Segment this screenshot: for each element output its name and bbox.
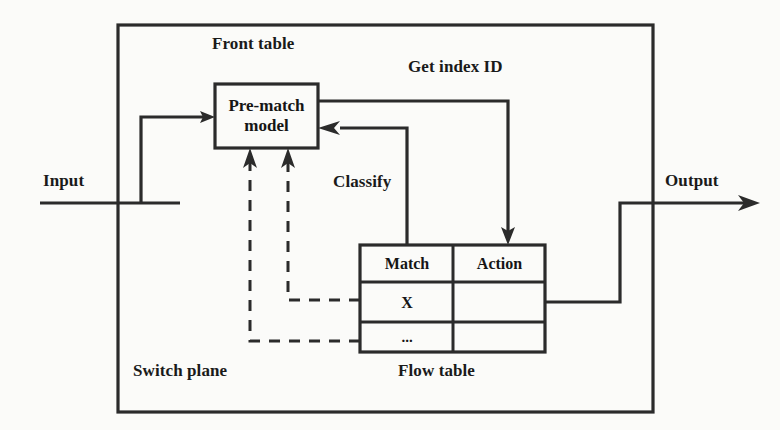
prematch-model-label: Pre-match model xyxy=(216,85,317,147)
flow-table-cell-action-2 xyxy=(454,323,545,352)
get-index-id-path xyxy=(318,101,508,233)
input-port-label: Input xyxy=(43,171,84,190)
output-path xyxy=(545,203,745,302)
prematch-model-line2: model xyxy=(244,116,288,136)
switch-plane-label: Switch plane xyxy=(133,361,227,380)
diagram-canvas: Pre-match model Match Action X ... Front… xyxy=(0,0,780,430)
flow-table-cell-match-2: ... xyxy=(361,323,453,352)
flow-table-header-action: Action xyxy=(454,246,545,282)
prematch-model-line1: Pre-match xyxy=(228,96,304,116)
flow-table-header-match: Match xyxy=(361,246,453,282)
flow-table-label: Flow table xyxy=(398,361,475,380)
front-table-label: Front table xyxy=(212,34,294,53)
input-to-prematch-path xyxy=(141,117,205,203)
switch-plane-diagram xyxy=(0,0,780,430)
get-index-id-label: Get index ID xyxy=(408,57,503,76)
classify-label: Classify xyxy=(333,172,391,191)
classify-arrowhead xyxy=(318,121,340,135)
flow-table-cell-action-1 xyxy=(454,283,545,322)
output-port-label: Output xyxy=(665,171,719,190)
switch-plane-boundary xyxy=(118,25,653,412)
flow-table-cell-match-1: X xyxy=(361,283,453,322)
